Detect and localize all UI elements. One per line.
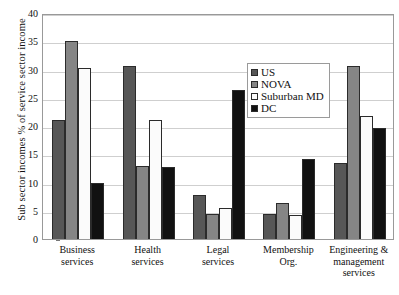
y-tick-label: 10 [28, 179, 38, 189]
bar-group [43, 15, 113, 239]
plot-area [42, 14, 394, 240]
legend-swatch-icon [251, 81, 258, 88]
bar [65, 41, 78, 239]
x-tick-label: Engineering &managementservices [324, 244, 394, 279]
legend-item: NOVA [251, 78, 324, 90]
x-tick-label: Healthservices [112, 244, 182, 267]
y-tick-label: 5 [33, 207, 38, 217]
legend-item: Suburban MD [251, 90, 324, 102]
y-tick-label: 0 [33, 235, 38, 245]
bar [78, 68, 91, 239]
bar [232, 90, 245, 239]
y-tick-mark [56, 240, 60, 241]
y-axis-tick-labels: 0510152025303540 [18, 14, 38, 240]
bar [276, 203, 289, 239]
legend-swatch-icon [251, 105, 258, 112]
legend-item: DC [251, 102, 324, 114]
bar [263, 214, 276, 239]
y-tick-label: 15 [28, 150, 38, 160]
bar [334, 163, 347, 239]
y-tick-label: 40 [28, 9, 38, 19]
bar [360, 116, 373, 239]
bar [347, 66, 360, 239]
bar [149, 120, 162, 239]
bar [302, 159, 315, 239]
x-axis-tick-labels: BusinessservicesHealthservicesLegalservi… [42, 244, 394, 294]
legend: USNOVASuburban MDDC [247, 63, 330, 118]
y-tick-label: 30 [28, 66, 38, 76]
bar-group [254, 15, 324, 239]
bar [219, 208, 232, 239]
y-tick-label: 35 [28, 37, 38, 47]
legend-item-label: DC [261, 102, 276, 114]
x-tick-label: MembershipOrg. [253, 244, 323, 267]
bar [206, 214, 219, 239]
x-tick-label: Businessservices [42, 244, 112, 267]
bar-group [113, 15, 183, 239]
y-tick-label: 25 [28, 94, 38, 104]
y-tick-label: 20 [28, 122, 38, 132]
bar [91, 183, 104, 240]
bar-chart: Sub sector incomes % of service sector i… [0, 0, 399, 295]
x-tick-label: Legalservices [183, 244, 253, 267]
bar [136, 166, 149, 239]
bar [289, 215, 302, 239]
bar-series-container [43, 15, 393, 239]
bar [123, 66, 136, 239]
legend-item-label: NOVA [261, 78, 291, 90]
bar-group [184, 15, 254, 239]
bar [52, 120, 65, 239]
legend-swatch-icon [251, 69, 258, 76]
legend-swatch-icon [251, 93, 258, 100]
bar-group [325, 15, 394, 239]
legend-item-label: US [261, 66, 275, 78]
bar [373, 128, 386, 239]
bar [193, 195, 206, 239]
legend-item-label: Suburban MD [261, 90, 324, 102]
legend-item: US [251, 66, 324, 78]
bar [162, 167, 175, 239]
